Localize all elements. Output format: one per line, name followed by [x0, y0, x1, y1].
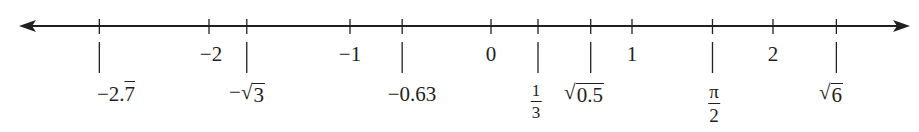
label-prefix: − [229, 82, 241, 103]
point-label-sqrt-0-5: √0.5 [564, 82, 604, 106]
tick-label-2: 2 [768, 44, 779, 65]
tick-label-neg2: −2 [200, 44, 222, 65]
radicand: 3 [252, 83, 265, 106]
sqrt-expression: −√3 [229, 82, 265, 106]
fraction-numerator: π [708, 82, 720, 104]
radical-sign-icon: √ [241, 82, 253, 103]
repeating-digit: 7 [125, 82, 136, 106]
fraction-numerator: 1 [531, 82, 542, 102]
label-prefix: −2. [97, 82, 125, 106]
fraction-denominator: 3 [532, 102, 541, 121]
radical-sign-icon: √ [564, 82, 576, 103]
tick-label-neg1: −1 [339, 44, 361, 65]
radicand: 6 [831, 83, 844, 106]
tick-label-0: 0 [486, 44, 497, 65]
number-line: −2 −1 0 1 2 −2.7 −√3 −0.63 1 3 √0.5 π 2 … [0, 0, 919, 132]
number-line-axis [0, 0, 919, 132]
point-label-pi-over-2: π 2 [708, 82, 720, 125]
point-label-neg-0-63: −0.63 [388, 84, 437, 105]
sqrt-expression: √6 [819, 82, 843, 106]
sqrt-expression: √0.5 [564, 82, 604, 106]
radicand: 0.5 [576, 83, 604, 106]
point-label-neg-2-7-repeating: −2.7 [97, 84, 135, 105]
tick-label-1: 1 [627, 44, 638, 65]
point-label-one-third: 1 3 [531, 82, 542, 121]
radical-sign-icon: √ [819, 82, 831, 103]
fraction-denominator: 2 [709, 104, 719, 125]
point-label-sqrt6: √6 [819, 82, 843, 106]
point-label-neg-sqrt3: −√3 [229, 82, 265, 106]
